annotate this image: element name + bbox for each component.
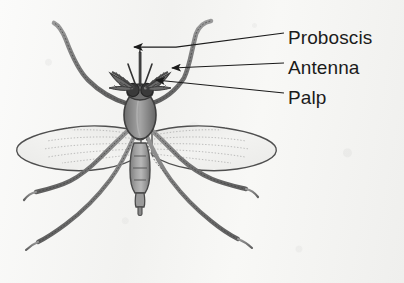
label-proboscis: Proboscis	[288, 28, 372, 47]
label-palp: Palp	[288, 88, 326, 107]
label-antenna: Antenna	[288, 58, 360, 77]
label-layer: Proboscis Antenna Palp	[0, 0, 404, 283]
